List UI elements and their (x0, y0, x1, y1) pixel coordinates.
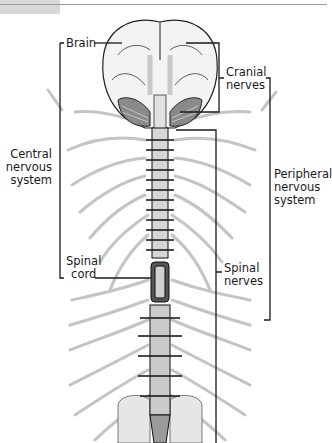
label-spinal-cord-line2: cord (66, 268, 101, 281)
label-peripheral-nervous-system: Peripheral nervous system (274, 168, 332, 207)
brain-illustration (103, 20, 218, 130)
label-cns-line3: system (0, 174, 52, 187)
label-brain: Brain (66, 37, 96, 50)
label-brain-text: Brain (66, 36, 96, 50)
label-cranial-line2: nerves (226, 79, 267, 92)
pns-bracket (264, 78, 270, 320)
label-central-nervous-system: Central nervous system (0, 148, 52, 187)
label-spinal-nerves-line2: nerves (224, 275, 263, 288)
label-spinal-cord: Spinal cord (66, 255, 101, 281)
label-spinal-nerves: Spinal nerves (224, 262, 263, 288)
label-cranial-nerves: Cranial nerves (226, 66, 267, 92)
label-pns-line3: system (274, 194, 332, 207)
cns-bracket (60, 43, 64, 278)
